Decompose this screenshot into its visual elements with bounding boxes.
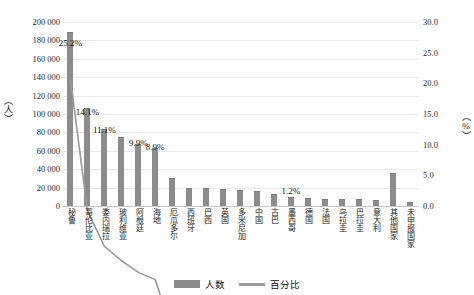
- x-axis-label-秘鲁: 秘鲁: [62, 208, 79, 270]
- y-axis-left-tick-label: 60 000: [37, 147, 60, 156]
- y-axis-left-tick-label: 100 000: [32, 110, 60, 119]
- legend-label-line: 百分比: [270, 277, 300, 291]
- x-axis-label-乌拉圭: 乌拉圭: [333, 208, 350, 270]
- y-axis-right-tick-label: 30.0: [423, 18, 438, 27]
- x-axis-label-text: 秘鲁: [66, 208, 74, 224]
- y-axis-left-tick-label: 80 000: [37, 128, 60, 137]
- y-axis-right-tick-label: 5.0: [423, 171, 434, 180]
- legend-line-swatch-icon: [239, 283, 265, 286]
- data-label: 1.2%: [281, 187, 300, 196]
- x-axis-label-巴西: 巴西: [198, 208, 215, 270]
- x-axis-label-text: 其他国家: [389, 208, 397, 240]
- legend-label-bar: 人数: [205, 277, 225, 291]
- y-axis-left-tick-label: 140 000: [32, 73, 60, 82]
- x-axis-label-text: 多米尼加: [236, 208, 244, 240]
- x-axis-label-text: 哥伦比亚: [83, 208, 91, 240]
- x-axis-label-英国: 英国: [215, 208, 232, 270]
- x-axis-label-哥伦比亚: 哥伦比亚: [79, 208, 96, 270]
- x-axis-label-text: 中国: [253, 208, 261, 224]
- y-axis-left-tick-label: 0: [56, 202, 60, 211]
- x-axis-label-text: 法国: [321, 208, 329, 224]
- x-axis-label-text: 意大利: [372, 208, 380, 232]
- data-label: 14.1%: [76, 108, 99, 117]
- x-axis-category-labels: 秘鲁哥伦比亚委内瑞拉玻利维亚阿根廷海地厄瓜多尔西班牙巴西英国多米尼加中国古巴墨西…: [62, 208, 418, 270]
- legend-item-bar: 人数: [174, 277, 225, 291]
- x-axis-label-墨西哥: 墨西哥: [282, 208, 299, 270]
- y-axis-right-tick-label: 25.0: [423, 48, 438, 57]
- y-axis-left-tick-label: 40 000: [37, 165, 60, 174]
- x-axis-label-text: 乌拉圭: [338, 208, 346, 232]
- x-axis-label-text: 玻利维亚: [117, 208, 125, 240]
- legend-item-line: 百分比: [239, 277, 300, 291]
- x-axis-label-多米尼加: 多米尼加: [232, 208, 249, 270]
- chart-container: （人） （%） 020 00040 00060 00080 000100 000…: [0, 0, 474, 295]
- y-axis-right-tick-label: 15.0: [423, 110, 438, 119]
- y-axis-right-tick-label: 10.0: [423, 140, 438, 149]
- x-axis-label-中国: 中国: [248, 208, 265, 270]
- y-axis-left-tick-label: 160 000: [32, 55, 60, 64]
- x-axis-label-其他国家: 其他国家: [384, 208, 401, 270]
- x-axis-label-厄瓜多尔: 厄瓜多尔: [164, 208, 181, 270]
- x-axis-label-text: 阿根廷: [134, 208, 142, 232]
- x-axis-label-未申报国家: 未申报国家: [401, 208, 418, 270]
- y-axis-right-tick-label: 0.0: [423, 202, 434, 211]
- y-axis-left-tick-label: 200 000: [32, 18, 60, 27]
- x-axis-label-text: 未申报国家: [405, 208, 413, 248]
- x-axis-label-玻利维亚: 玻利维亚: [113, 208, 130, 270]
- x-axis-label-text: 德国: [304, 208, 312, 224]
- x-axis-label-意大利: 意大利: [367, 208, 384, 270]
- x-axis-label-阿根廷: 阿根廷: [130, 208, 147, 270]
- y-axis-left-tick-label: 20 000: [37, 183, 60, 192]
- x-axis-label-text: 厄瓜多尔: [168, 208, 176, 240]
- x-axis-label-text: 巴拉圭: [355, 208, 363, 232]
- y-axis-left-tick-label: 180 000: [32, 36, 60, 45]
- data-label: 8.9%: [146, 143, 165, 152]
- x-axis-label-text: 巴西: [202, 208, 210, 224]
- x-axis-label-text: 英国: [219, 208, 227, 224]
- y-axis-right-tick-label: 20.0: [423, 79, 438, 88]
- chart-legend: 人数 百分比: [0, 277, 474, 291]
- y-axis-right-ticks: 0.05.010.015.020.025.030.0: [420, 0, 460, 295]
- x-axis-label-德国: 德国: [299, 208, 316, 270]
- data-label: 25.2%: [59, 39, 82, 48]
- y-axis-right-title: （%）: [460, 112, 473, 140]
- x-axis-label-text: 委内瑞拉: [100, 208, 108, 240]
- x-axis-label-法国: 法国: [316, 208, 333, 270]
- x-axis-label-海地: 海地: [147, 208, 164, 270]
- plot-area: 25.2%14.1%11.1%9.9%8.9%1.2%: [62, 22, 418, 206]
- data-label: 9.9%: [129, 139, 148, 148]
- x-axis-label-西班牙: 西班牙: [181, 208, 198, 270]
- legend-bar-swatch-icon: [174, 280, 200, 288]
- x-axis-label-text: 古巴: [270, 208, 278, 224]
- x-axis-label-古巴: 古巴: [265, 208, 282, 270]
- data-label: 11.1%: [93, 126, 116, 135]
- x-axis-label-text: 海地: [151, 208, 159, 224]
- x-axis-label-text: 西班牙: [185, 208, 193, 232]
- y-axis-left-ticks: 020 00040 00060 00080 000100 000120 0001…: [14, 0, 62, 295]
- x-axis-label-text: 墨西哥: [287, 208, 295, 232]
- x-axis-label-委内瑞拉: 委内瑞拉: [96, 208, 113, 270]
- y-axis-left-tick-label: 120 000: [32, 91, 60, 100]
- x-axis-label-巴拉圭: 巴拉圭: [350, 208, 367, 270]
